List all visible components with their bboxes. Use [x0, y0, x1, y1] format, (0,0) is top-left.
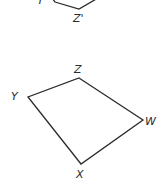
label-y: Y — [11, 90, 19, 103]
label-w: W — [145, 115, 157, 128]
geometry-diagram: Y' Z' Z W X Y — [0, 0, 167, 188]
quadrilateral-wxyz — [28, 78, 143, 164]
bottom-figure: Z W X Y — [11, 63, 157, 181]
top-figure-edges — [52, 0, 98, 9]
label-z: Z — [73, 63, 82, 76]
label-y-prime: Y' — [37, 0, 47, 7]
label-z-prime: Z' — [72, 12, 84, 25]
top-figure: Y' Z' — [37, 0, 98, 25]
label-x: X — [75, 168, 84, 181]
